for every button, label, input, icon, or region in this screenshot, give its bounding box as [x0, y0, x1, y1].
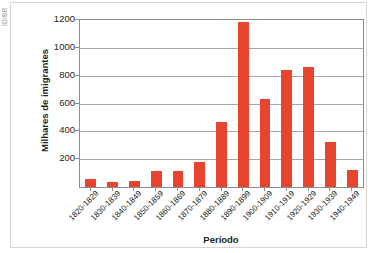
y-tick-label: 1000: [31, 42, 75, 52]
chart-title: [71, 0, 331, 5]
bar[interactable]: [347, 170, 358, 187]
x-axis-tick-labels: 1820-18291830-18391840-18491850-18591860…: [79, 189, 364, 235]
bar[interactable]: [173, 171, 184, 187]
bar[interactable]: [303, 67, 314, 187]
bar[interactable]: [107, 182, 118, 187]
bar[interactable]: [85, 179, 96, 187]
bar[interactable]: [260, 99, 271, 187]
bar[interactable]: [238, 22, 249, 187]
bar[interactable]: [216, 122, 227, 187]
bar[interactable]: [194, 162, 205, 187]
x-tick-mark: [308, 188, 309, 191]
bar[interactable]: [129, 181, 140, 187]
y-tick-label: 400: [31, 125, 75, 135]
x-tick-mark: [221, 188, 222, 191]
plot-area: [79, 19, 364, 188]
bar[interactable]: [151, 171, 162, 187]
y-axis-tick-labels: 20040060080010001200: [31, 19, 75, 188]
figure-frame: Milhares de imigrantes 20040060080010001…: [10, 2, 367, 248]
bar[interactable]: [325, 142, 336, 187]
y-tick-label: 800: [31, 70, 75, 80]
x-axis-title: Período: [71, 234, 371, 245]
bars-layer: [80, 20, 363, 187]
y-tick-label: 600: [31, 98, 75, 108]
y-tick-label: 1200: [31, 14, 75, 24]
bar[interactable]: [281, 70, 292, 187]
y-tick-label: 200: [31, 153, 75, 163]
